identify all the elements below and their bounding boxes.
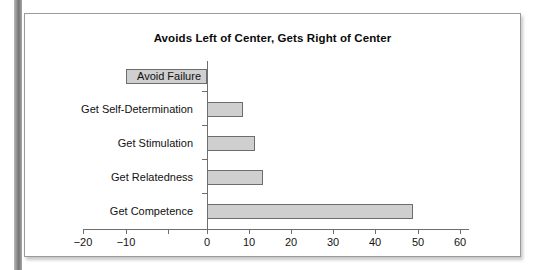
x-tick-0-minor [168, 229, 169, 234]
x-tick-60 [460, 229, 461, 234]
page-binding-gutter [14, 0, 22, 270]
page-root: Avoids Left of Center, Gets Right of Cen… [0, 0, 538, 270]
chart-row-get-relatedness: Get Relatedness [25, 162, 522, 192]
x-tick-50 [418, 229, 419, 234]
category-tick-1 [202, 91, 207, 92]
x-tick-label-30: 30 [327, 236, 339, 248]
bar-get-competence [207, 204, 413, 219]
plot-area: Avoid Failure Get Self-Determination Get… [25, 14, 522, 258]
chart-row-get-stimulation: Get Stimulation [25, 128, 522, 158]
x-tick-label--20: −20 [74, 236, 93, 248]
category-label-get-stimulation: Get Stimulation [25, 128, 199, 158]
category-tick-3 [202, 159, 207, 160]
category-label-get-relatedness: Get Relatedness [25, 162, 199, 192]
bar-get-stimulation [207, 136, 255, 151]
x-tick-label-10: 10 [243, 236, 255, 248]
x-tick--10 [126, 229, 127, 234]
x-tick-20 [291, 229, 292, 234]
x-tick-label-50: 50 [412, 236, 424, 248]
category-tick-2 [202, 125, 207, 126]
category-label-avoid-failure: Avoid Failure [137, 61, 205, 91]
chart-row-get-competence: Get Competence [25, 196, 522, 226]
x-tick-40 [375, 229, 376, 234]
x-tick-label-40: 40 [369, 236, 381, 248]
chart-row-get-self-determination: Get Self-Determination [25, 94, 522, 124]
x-tick-label--10: −10 [117, 236, 136, 248]
category-label-get-self-determination: Get Self-Determination [25, 94, 199, 124]
x-axis-line [83, 229, 469, 230]
x-tick-0 [207, 229, 208, 234]
bar-get-relatedness [207, 170, 263, 185]
bar-get-self-determination [207, 102, 243, 117]
x-tick-30 [333, 229, 334, 234]
x-tick-label-20: 20 [285, 236, 297, 248]
zero-axis-line [207, 61, 208, 229]
x-tick-label-60: 60 [454, 236, 466, 248]
category-tick-4 [202, 193, 207, 194]
chart-panel: Avoids Left of Center, Gets Right of Cen… [24, 13, 521, 257]
chart-row-avoid-failure: Avoid Failure [25, 61, 522, 91]
x-tick--20 [83, 229, 84, 234]
category-label-get-competence: Get Competence [25, 196, 199, 226]
x-tick-10 [249, 229, 250, 234]
x-tick-label-0: 0 [204, 236, 210, 248]
